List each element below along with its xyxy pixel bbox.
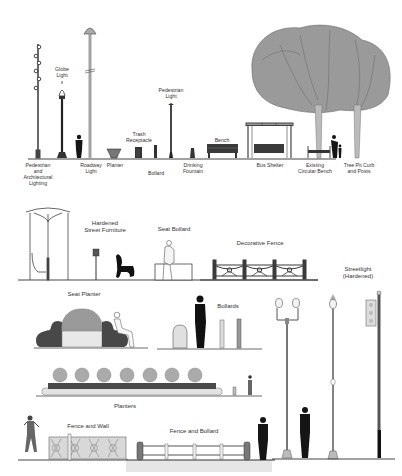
planter-icon [107,149,121,158]
ornamental-streetlight-icon [328,294,338,459]
label-planters: Planters [108,403,142,410]
label-bus-shelter: Bus Shelter [252,162,288,168]
label-planter: Planter [104,162,126,168]
person-silhouette-icon [258,417,268,460]
label-fence-and-wall: Fence and Wall [60,423,116,430]
fence-bollard-icon [126,442,275,472]
label-roadway-light: Roadway Light [78,162,104,174]
label-streetlight-hardened: Streetlight (Hardened) [336,266,380,280]
label-seat-bollard: Seat Bollard [152,226,196,233]
person-silhouette-icon [300,407,310,458]
tree-icon [252,25,390,158]
label-pedestrian-light: Pedestrian Light [156,87,186,99]
label-decorative-fence: Decorative Fence [230,240,290,247]
bollard-icon [154,145,157,158]
label-trash-receptacle: Trash Receptacle [122,131,156,143]
hardened-streetlight-icon [366,291,381,458]
bus-shelter-icon [246,123,293,158]
label-tree-pit: Tree Pit Curb and Posts [338,162,380,174]
trash-receptacle-icon [135,147,142,158]
double-globe-streetlight-icon [276,299,300,459]
architectural-lighting-icon [34,44,41,158]
adult-child-silhouette-icon [331,135,342,158]
bollards-group-icon [157,296,262,350]
label-bollards: Bollards [212,303,244,310]
label-pedestrian-architectural-lighting: Pedestrian and Architectural Lighting [18,162,58,186]
hardened-shelter-icon [26,208,70,280]
label-hardened-street-furniture: Hardened Street Furniture [80,220,130,234]
person-silhouette-icon [76,135,83,158]
label-seat-planter: Seat Planter [62,291,106,298]
long-planters-icon [36,368,262,396]
label-fence-and-bollard: Fence and Bollard [162,428,226,435]
label-drinking-fountain: Drinking Fountain [178,162,208,174]
roadway-light-icon [84,28,96,158]
seat-bollard-icon [155,241,192,281]
pedestrian-light-icon [168,103,174,158]
bench-icon [207,144,238,158]
label-bench: Bench [210,137,234,143]
runner-silhouette-icon [24,416,39,453]
label-circular-bench: Existing Circular Bench [294,162,336,174]
label-globe-light: Globe Light [50,66,74,78]
decorative-fence-icon [200,260,318,280]
hardened-bench-icon [116,254,134,278]
label-bollard: Bollard [144,170,168,176]
seat-planter-icon [34,309,148,348]
globe-light-icon [57,81,67,158]
drinking-fountain-icon [190,148,195,158]
parking-meter-icon [93,249,99,280]
